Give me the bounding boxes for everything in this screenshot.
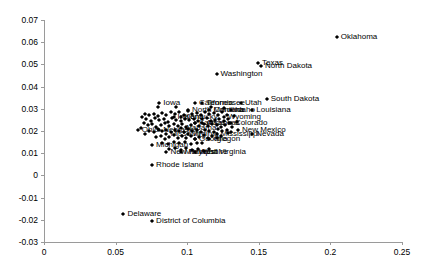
data-point (156, 105, 160, 109)
x-tick-mark (259, 242, 260, 245)
x-axis-line (44, 242, 402, 243)
data-point (189, 142, 193, 146)
x-tick-label: 0.2 (324, 248, 336, 257)
y-tick-mark (41, 175, 44, 176)
y-tick-mark (41, 20, 44, 21)
y-tick-label: 0.04 (2, 83, 38, 92)
y-tick-mark (41, 64, 44, 65)
y-tick-label: 0.06 (2, 38, 38, 47)
data-point (164, 112, 168, 116)
x-tick-label: 0.1 (181, 248, 193, 257)
y-tick-mark (41, 109, 44, 110)
x-tick-mark (116, 242, 117, 245)
y-tick-label: 0.07 (2, 16, 38, 25)
point-label: Nevada (256, 130, 284, 138)
y-tick-label: -0.03 (2, 238, 38, 247)
y-tick-label: -0.02 (2, 216, 38, 225)
y-tick-label: 0.03 (2, 105, 38, 114)
y-tick-mark (41, 131, 44, 132)
x-tick-mark (402, 242, 403, 245)
x-tick-mark (44, 242, 45, 245)
y-tick-mark (41, 87, 44, 88)
point-label: Oklahoma (341, 33, 377, 41)
scatter-chart: 0.070.060.050.040.030.020.010-0.01-0.02-… (0, 0, 426, 277)
point-label: South Dakota (271, 95, 319, 103)
y-tick-mark (41, 42, 44, 43)
y-tick-label: 0.05 (2, 60, 38, 69)
point-label: Oregon (213, 135, 240, 143)
y-tick-label: -0.01 (2, 194, 38, 203)
x-tick-label: 0.25 (394, 248, 411, 257)
data-point (150, 143, 154, 147)
point-label: Rhode Island (156, 161, 203, 169)
y-tick-label: 0 (2, 171, 38, 180)
x-tick-label: 0 (42, 248, 47, 257)
data-point (265, 97, 269, 101)
y-axis-line (44, 20, 45, 242)
data-point (121, 212, 125, 216)
data-point (159, 134, 163, 138)
x-tick-label: 0.15 (251, 248, 268, 257)
point-label: Washington (221, 70, 263, 78)
x-tick-mark (187, 242, 188, 245)
y-tick-mark (41, 198, 44, 199)
data-point (157, 101, 161, 105)
x-tick-mark (330, 242, 331, 245)
plot-area: 0.070.060.050.040.030.020.010-0.01-0.02-… (44, 20, 402, 242)
point-label: North Dakota (265, 62, 312, 70)
y-tick-mark (41, 153, 44, 154)
y-tick-label: 0.02 (2, 127, 38, 136)
y-tick-mark (41, 220, 44, 221)
y-tick-label: 0.01 (2, 149, 38, 158)
data-point (136, 128, 140, 132)
data-point (335, 35, 339, 39)
point-label: Maryland (185, 148, 218, 156)
data-point (214, 72, 218, 76)
data-point (150, 219, 154, 223)
x-tick-label: 0.05 (107, 248, 124, 257)
point-label: District of Columbia (156, 217, 225, 225)
point-label: Iowa (163, 99, 180, 107)
point-label: Louisiana (256, 106, 290, 114)
data-point (150, 163, 154, 167)
